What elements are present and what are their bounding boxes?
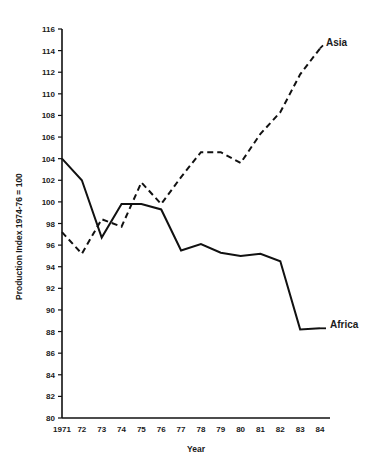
x-tick-label-74: 74 (117, 425, 126, 434)
y-tick-label-96: 96 (46, 241, 55, 250)
y-tick-label-80: 80 (46, 414, 55, 423)
y-tick-label-82: 82 (46, 392, 55, 401)
x-tick-label-80: 80 (236, 425, 245, 434)
y-tick-label-88: 88 (46, 328, 55, 337)
x-tick-label-75: 75 (137, 425, 146, 434)
x-tick-label-82: 82 (276, 425, 285, 434)
y-tick-label-108: 108 (42, 111, 56, 120)
y-axis-title: Production Index 1974-76 = 100 (14, 173, 24, 300)
y-tick-label-92: 92 (46, 284, 55, 293)
y-tick-label-114: 114 (42, 47, 55, 56)
y-tick-label-98: 98 (46, 220, 55, 229)
y-tick-label-84: 84 (46, 371, 55, 380)
y-tick-label-112: 112 (42, 68, 55, 77)
series-group (62, 48, 320, 329)
x-tick-label-79: 79 (216, 425, 225, 434)
y-tick-label-106: 106 (42, 133, 56, 142)
series-line-africa (62, 159, 320, 330)
x-tick-label-1971: 1971 (53, 425, 71, 434)
y-tick-label-90: 90 (46, 306, 55, 315)
x-tick-label-73: 73 (97, 425, 106, 434)
y-tick-label-100: 100 (42, 198, 56, 207)
series-annotations: Asia Africa (320, 37, 359, 330)
x-tick-label-78: 78 (196, 425, 205, 434)
y-axis-tick-labels: 8082848688909294969810010210410610811011… (42, 25, 56, 423)
y-tick-label-94: 94 (46, 263, 55, 272)
y-axis-group: 8082848688909294969810010210410610811011… (42, 25, 62, 423)
x-axis-title: Year (187, 444, 206, 454)
chart-container: 8082848688909294969810010210410610811011… (0, 0, 371, 464)
x-tick-label-72: 72 (77, 425, 86, 434)
series-label-asia: Asia (326, 37, 348, 48)
x-axis-group: 197172737475767778798081828384 (53, 418, 330, 434)
x-tick-label-81: 81 (256, 425, 265, 434)
asia-label-leader (320, 45, 323, 48)
x-tick-label-77: 77 (177, 425, 186, 434)
y-tick-label-102: 102 (42, 176, 56, 185)
y-tick-label-116: 116 (42, 25, 55, 34)
x-axis-tick-labels: 197172737475767778798081828384 (53, 425, 325, 434)
y-tick-label-104: 104 (42, 155, 56, 164)
y-tick-label-110: 110 (42, 90, 55, 99)
series-line-asia (62, 48, 320, 253)
x-tick-label-83: 83 (296, 425, 305, 434)
y-tick-label-86: 86 (46, 349, 55, 358)
x-tick-label-76: 76 (157, 425, 166, 434)
series-label-africa: Africa (330, 319, 359, 330)
x-tick-label-84: 84 (316, 425, 325, 434)
production-index-line-chart: 8082848688909294969810010210410610811011… (0, 0, 371, 464)
